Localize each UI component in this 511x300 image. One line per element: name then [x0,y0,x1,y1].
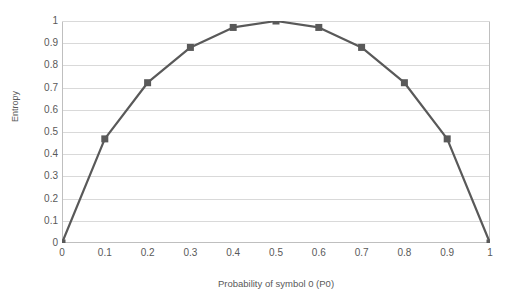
data-point-marker [62,240,66,244]
y-tick-label: 0.9 [8,37,62,49]
data-point-marker [444,135,451,142]
data-point-marker [358,44,365,51]
x-tick-label: 0.9 [427,246,467,259]
entropy-chart: Entropy 00.10.20.30.40.50.60.70.80.91 00… [0,0,511,300]
y-tick-label: 0.7 [8,82,62,94]
data-point-marker [487,240,491,244]
data-point-marker [187,44,194,51]
x-tick-label: 0.7 [342,246,382,259]
y-tick-label: 0.2 [8,193,62,205]
x-tick-label: 1 [470,246,510,259]
data-point-marker [101,135,108,142]
y-tick-label: 0.6 [8,104,62,116]
x-tick-label: 0.5 [256,246,296,259]
x-axis-title: Probability of symbol 0 (P0) [62,278,490,289]
y-tick-label: 1 [8,15,62,27]
x-tick-label: 0.2 [128,246,168,259]
y-tick-label: 0.8 [8,59,62,71]
y-tick-label: 0.5 [8,126,62,138]
y-tick-label: 0.1 [8,215,62,227]
y-axis-tick-labels: 00.10.20.30.40.50.60.70.80.91 [0,21,62,243]
data-point-marker [230,24,237,31]
x-tick-label: 0.3 [170,246,210,259]
y-tick-label: 0.3 [8,170,62,182]
plot-area [62,21,490,243]
data-point-marker [401,79,408,86]
chart-canvas [62,21,490,243]
x-axis-tick-labels: 00.10.20.30.40.50.60.70.80.91 [62,246,490,260]
chart-title [0,0,511,12]
x-tick-label: 0 [42,246,82,259]
data-point-marker [273,21,280,25]
x-tick-label: 0.6 [299,246,339,259]
x-tick-label: 0.1 [85,246,125,259]
data-point-marker [144,79,151,86]
y-tick-label: 0.4 [8,148,62,160]
x-tick-label: 0.8 [384,246,424,259]
data-point-marker [315,24,322,31]
x-tick-label: 0.4 [213,246,253,259]
gridlines [62,22,490,244]
